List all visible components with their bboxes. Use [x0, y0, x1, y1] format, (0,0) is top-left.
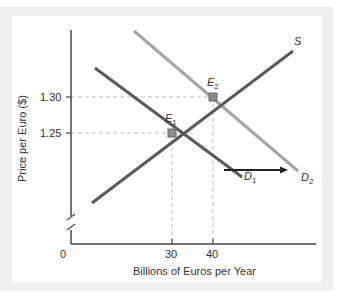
y-tick-1.30: 1.30 [40, 91, 61, 103]
supply-curve [92, 51, 293, 203]
y-axis-title: Price per Euro ($) [16, 95, 28, 182]
ticks [66, 97, 213, 244]
supply-demand-chart: 1.30 1.25 0 30 40 Billions of Euros per … [0, 0, 341, 302]
x-tick-40: 40 [206, 248, 218, 260]
equilibrium-point-e2 [209, 93, 217, 101]
dashed-guides [71, 97, 213, 244]
x-tick-30: 30 [165, 248, 177, 260]
y-tick-1.25: 1.25 [40, 127, 61, 139]
axis-break-icon [67, 214, 75, 230]
x-tick-origin: 0 [60, 248, 66, 260]
supply-label: S [294, 35, 302, 47]
equilibrium-point-e1 [168, 129, 176, 137]
e2-label: E2 [207, 76, 219, 91]
x-axis-title: Billions of Euros per Year [133, 265, 256, 277]
d1-label: D1 [244, 170, 257, 185]
d2-label: D2 [301, 171, 314, 186]
